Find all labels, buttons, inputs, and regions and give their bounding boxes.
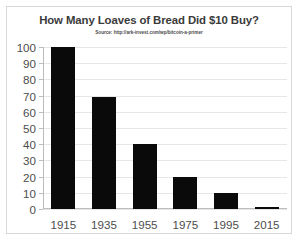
- bar-group: 1935: [84, 47, 125, 209]
- x-axis-tick-label: 1955: [132, 218, 158, 231]
- x-axis-tick-label: 1995: [213, 218, 239, 231]
- bar: [51, 47, 75, 209]
- y-axis-tick-label: 20: [23, 170, 36, 183]
- bar-series: 191519351955197519952015: [43, 47, 287, 209]
- x-axis-tick-label: 1975: [172, 218, 198, 231]
- chart-screenshot: How Many Loaves of Bread Did $10 Buy? So…: [0, 0, 300, 248]
- y-axis-tick-label: 30: [23, 154, 36, 167]
- x-axis-tick-label: 1935: [91, 218, 117, 231]
- x-axis-tick-label: 2015: [254, 218, 280, 231]
- y-axis-tick-label: 10: [23, 186, 36, 199]
- y-axis-tick-label: 100: [17, 41, 36, 54]
- y-axis-tick-label: 80: [23, 73, 36, 86]
- bar-group: 1955: [124, 47, 165, 209]
- bar: [214, 193, 238, 209]
- plot-area: 0102030405060708090100 19151935195519751…: [43, 47, 287, 209]
- bar: [255, 207, 279, 209]
- chart-frame: How Many Loaves of Bread Did $10 Buy? So…: [6, 6, 292, 234]
- x-axis-tick-label: 1915: [50, 218, 76, 231]
- bar-group: 2015: [246, 47, 287, 209]
- y-axis-tick-label: 50: [23, 122, 36, 135]
- chart-title: How Many Loaves of Bread Did $10 Buy?: [7, 14, 291, 26]
- bar: [173, 177, 197, 209]
- bar-group: 1995: [206, 47, 247, 209]
- y-axis-tick-label: 70: [23, 89, 36, 102]
- bar: [92, 97, 116, 209]
- y-axis-tick-label: 90: [23, 57, 36, 70]
- bar-group: 1975: [165, 47, 206, 209]
- y-axis-tick-label: 0: [30, 203, 36, 216]
- chart-source-subtitle: Source: http://ark-invest.com/wp/bitcoin…: [7, 30, 291, 35]
- gridline: [43, 209, 287, 210]
- bar: [133, 144, 157, 209]
- y-axis-tick-label: 40: [23, 138, 36, 151]
- bar-group: 1915: [43, 47, 84, 209]
- y-axis-tick: [39, 209, 43, 210]
- y-axis-tick-label: 60: [23, 105, 36, 118]
